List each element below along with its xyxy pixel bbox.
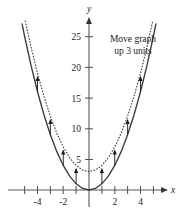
y-tick-label-5: 5 bbox=[76, 155, 81, 165]
x-tick-label--4: -4 bbox=[34, 197, 42, 207]
parabola-shift-figure: -4 -2 2 4 5 10 15 20 25 x y Move graph u… bbox=[0, 0, 181, 215]
y-tick-label-20: 20 bbox=[72, 63, 82, 73]
annotation-line-2: up 3 units bbox=[114, 46, 152, 56]
y-tick-label-25: 25 bbox=[72, 32, 82, 42]
x-axis-label: x bbox=[170, 185, 176, 195]
x-tick-label-4: 4 bbox=[138, 197, 143, 207]
graph-canvas: -4 -2 2 4 5 10 15 20 25 x y Move graph u… bbox=[0, 0, 181, 215]
y-tick-label-15: 15 bbox=[72, 94, 82, 104]
y-tick-label-10: 10 bbox=[72, 124, 82, 134]
x-tick-label--2: -2 bbox=[59, 197, 67, 207]
annotation-line-1: Move graph bbox=[110, 34, 156, 44]
x-tick-label-2: 2 bbox=[112, 197, 117, 207]
y-axis-label: y bbox=[86, 4, 92, 14]
